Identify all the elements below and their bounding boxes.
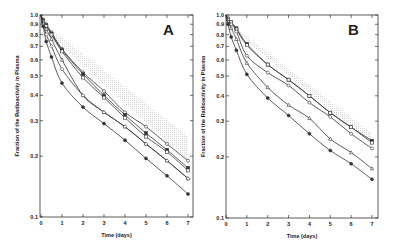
data-marker-circle [103,122,106,125]
x-tick-label: 6 [165,220,168,226]
data-marker-circle [350,162,353,165]
x-tick-label: 7 [186,220,189,226]
data-marker-square [187,169,190,172]
data-marker-circle [187,192,190,195]
y-tick-label: 1.0 [30,12,38,18]
data-marker-square [308,94,311,97]
y-tick-label: 0.2 [216,154,224,160]
x-tick-label: 7 [370,221,373,227]
data-marker-circle [145,125,148,128]
data-marker-circle [124,139,127,142]
panel-letter: B [348,21,359,38]
data-marker-circle [82,106,85,109]
data-marker-circle [103,90,106,93]
x-tick-label: 1 [245,221,248,227]
y-tick-label: 0.2 [30,153,38,159]
plot-frame [226,15,378,218]
y-tick-label: 0.1 [30,214,38,220]
x-tick-label: 4 [308,221,312,227]
data-marker-square [50,33,53,36]
data-marker-square [245,44,248,47]
data-marker-circle [145,157,148,160]
x-tick-label: 5 [144,220,147,226]
data-marker-triangle [230,26,233,29]
x-tick-label: 2 [266,221,269,227]
y-tick-label: 0.8 [216,32,224,38]
x-tick-label: 0 [224,221,227,227]
y-tick-label: 0.3 [216,118,224,124]
data-marker-circle [230,35,233,38]
data-marker-square [103,96,106,99]
data-marker-circle [166,174,169,177]
data-marker-circle [166,142,169,145]
data-marker-square [266,63,269,66]
data-marker-circle [371,178,374,181]
y-tick-label: 0.3 [30,118,38,124]
data-marker-diamond [50,44,54,48]
data-marker-circle [329,149,332,152]
data-marker-circle [350,132,353,135]
y-tick-label: 0.8 [30,32,38,38]
x-tick-label: 1 [60,220,63,226]
data-marker-triangle [235,37,238,40]
data-marker-circle [287,114,290,117]
y-tick-label: 0.9 [30,21,38,27]
y-tick-label: 0.5 [30,73,38,79]
data-marker-circle [266,97,269,100]
y-tick-label: 0.6 [30,57,38,63]
x-axis-label: Time (days) [101,232,132,238]
data-marker-circle [308,132,311,135]
data-marker-square [145,135,148,138]
data-marker-circle [61,82,64,85]
y-tick-label: 0.7 [216,43,224,49]
data-marker-circle [227,23,230,26]
data-marker-square [61,50,64,53]
data-marker-square [287,78,290,81]
y-tick-label: 0.7 [30,43,38,49]
figure: 012345670.10.20.30.40.50.60.70.80.91.0Ti… [0,0,393,249]
y-tick-label: 0.5 [216,73,224,79]
y-tick-label: 1.0 [216,12,224,18]
data-marker-circle [245,73,248,76]
data-marker-circle [50,55,53,58]
panel-letter: A [163,21,174,38]
data-marker-square [124,116,127,119]
data-marker-circle [42,25,45,28]
data-marker-square [82,76,85,79]
shaded-band [52,29,189,160]
x-tick-label: 5 [329,221,332,227]
x-tick-label: 0 [39,220,42,226]
data-marker-circle [287,84,290,87]
y-axis-label: Fraction of the Radioactivity in Plasma [200,55,206,157]
data-marker-square [350,126,353,129]
data-marker-circle [45,40,48,43]
panel-b: 012345670.10.20.30.40.50.60.70.80.91.0Ti… [200,12,378,239]
data-marker-square [371,141,374,144]
x-tick-label: 3 [102,220,105,226]
y-tick-label: 0.4 [30,92,39,98]
y-tick-label: 0.1 [216,215,224,221]
data-marker-circle [266,71,269,74]
x-tick-label: 6 [350,221,353,227]
data-marker-circle [371,147,374,150]
data-marker-triangle [349,151,352,154]
y-axis-label: Fraction of the Radioactivity in Plasma [14,54,20,156]
data-marker-square [82,73,85,76]
x-tick-label: 4 [123,220,127,226]
data-marker-square [145,132,148,135]
panel-a: 012345670.10.20.30.40.50.60.70.80.91.0Ti… [14,12,193,238]
data-marker-circle [329,115,332,118]
data-marker-square [329,111,332,114]
data-marker-circle [245,54,248,57]
x-tick-label: 2 [81,220,84,226]
y-tick-label: 0.4 [216,93,225,99]
data-marker-square [166,150,169,153]
data-marker-circle [235,30,238,33]
x-axis-label: Time (days) [287,233,318,239]
y-tick-label: 0.9 [216,21,224,27]
data-marker-circle [187,159,190,162]
data-marker-circle [235,49,238,52]
y-tick-label: 0.6 [216,57,224,63]
x-tick-label: 3 [287,221,290,227]
data-marker-circle [308,101,311,104]
